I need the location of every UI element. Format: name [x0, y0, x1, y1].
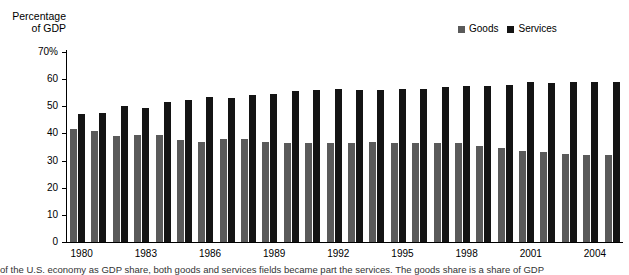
bar-group	[348, 52, 366, 242]
bar-services	[78, 114, 85, 242]
legend-swatch-icon	[507, 26, 514, 33]
bar-group	[583, 52, 601, 242]
bar-services	[613, 82, 620, 242]
bar-group	[519, 52, 537, 242]
y-axis-title: Percentage of GDP	[6, 10, 66, 34]
bar-group	[434, 52, 452, 242]
y-axis-tick-label: 50	[0, 99, 58, 112]
y-axis-title-line1: Percentage	[6, 10, 66, 22]
bar-goods	[91, 131, 98, 242]
bar-group	[605, 52, 623, 242]
bar-goods	[327, 143, 334, 242]
y-axis-tick-label: 70%	[0, 45, 58, 58]
bar-services	[249, 95, 256, 242]
bar-goods	[476, 146, 483, 242]
y-axis-tick: 20	[0, 188, 67, 189]
chart-legend: GoodsServices	[458, 23, 557, 35]
bar-services	[356, 90, 363, 242]
x-axis-label: 2004	[575, 248, 615, 260]
bar-services	[527, 82, 534, 242]
bar-group	[540, 52, 558, 242]
bar-group	[220, 52, 238, 242]
x-axis-label: 1998	[447, 248, 487, 260]
bar-goods	[113, 136, 120, 242]
bar-goods	[134, 135, 141, 242]
x-axis-label: 1986	[190, 248, 230, 260]
y-axis-tick: 60	[0, 79, 67, 80]
bar-group	[498, 52, 516, 242]
bar-group	[241, 52, 259, 242]
bar-goods	[70, 129, 77, 242]
bar-goods	[562, 154, 569, 242]
legend-label: Goods	[469, 23, 498, 35]
bar-goods	[262, 142, 269, 242]
figure-caption: of the U.S. economy as GDP share, both g…	[0, 264, 629, 275]
bar-group	[198, 52, 216, 242]
y-axis-title-line2: of GDP	[6, 22, 66, 34]
x-axis-label: 1989	[254, 248, 294, 260]
bar-goods	[412, 143, 419, 242]
bar-services	[313, 90, 320, 242]
y-axis-tick: 40	[0, 133, 67, 134]
bar-goods	[156, 135, 163, 242]
bar-group	[455, 52, 473, 242]
bar-services	[292, 91, 299, 242]
plot-area	[67, 52, 623, 242]
y-axis-tick: 70%	[0, 52, 67, 53]
x-axis-line	[66, 242, 623, 243]
chart-figure: Percentage of GDP GoodsServices 70%60504…	[0, 0, 629, 275]
bar-goods	[455, 143, 462, 242]
bar-group	[91, 52, 109, 242]
y-axis-tick: 10	[0, 215, 67, 216]
y-axis-tick: 0	[0, 242, 67, 243]
y-axis-tick: 30	[0, 161, 67, 162]
bar-group	[113, 52, 131, 242]
bar-goods	[605, 155, 612, 242]
legend-label: Services	[518, 23, 556, 35]
bar-services	[142, 108, 149, 242]
bar-services	[335, 89, 342, 242]
bar-group	[284, 52, 302, 242]
bar-goods	[369, 142, 376, 242]
y-axis-tick-label: 10	[0, 208, 58, 221]
y-axis-tick: 50	[0, 106, 67, 107]
bar-goods	[348, 143, 355, 242]
y-axis-tick-label: 40	[0, 126, 58, 139]
bar-group	[305, 52, 323, 242]
x-axis-label: 1995	[382, 248, 422, 260]
bar-group	[134, 52, 152, 242]
y-axis-tick-label: 0	[0, 235, 58, 248]
bar-services	[206, 97, 213, 242]
legend-item-services: Services	[507, 23, 556, 35]
bar-group	[476, 52, 494, 242]
bar-services	[506, 85, 513, 242]
y-axis-tick-label: 30	[0, 154, 58, 167]
bar-services	[185, 100, 192, 243]
legend-swatch-icon	[458, 26, 465, 33]
bar-services	[484, 86, 491, 242]
bar-services	[548, 83, 555, 242]
bar-goods	[519, 151, 526, 242]
x-axis-label: 2001	[511, 248, 551, 260]
y-axis-tick-label: 60	[0, 72, 58, 85]
y-axis-tick-mark	[62, 242, 67, 243]
bar-services	[164, 102, 171, 242]
bar-services	[270, 94, 277, 242]
bar-goods	[198, 142, 205, 242]
bar-goods	[434, 143, 441, 242]
bar-goods	[540, 152, 547, 242]
bar-group	[412, 52, 430, 242]
bar-services	[442, 87, 449, 242]
x-axis-label: 1980	[62, 248, 102, 260]
bar-goods	[177, 140, 184, 242]
bar-goods	[391, 143, 398, 242]
y-axis-tick-label: 20	[0, 181, 58, 194]
x-axis-label: 1992	[318, 248, 358, 260]
x-axis-label: 1983	[126, 248, 166, 260]
bar-services	[591, 82, 598, 242]
bar-services	[99, 113, 106, 242]
bar-services	[463, 86, 470, 242]
bar-services	[570, 82, 577, 242]
bar-group	[70, 52, 88, 242]
bar-services	[420, 89, 427, 242]
